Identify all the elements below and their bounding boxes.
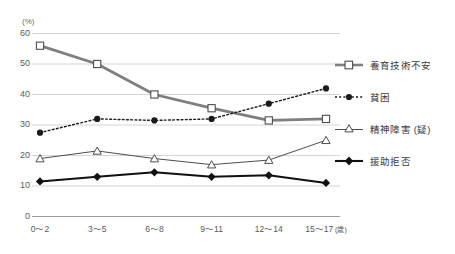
data-point-marker — [94, 60, 101, 67]
data-point-marker — [265, 156, 273, 163]
data-point-marker — [322, 115, 329, 122]
data-point-marker — [36, 177, 44, 185]
legend-item-yoiku[interactable]: 養育技術不安 — [334, 57, 454, 73]
data-point-marker — [36, 42, 43, 49]
data-point-marker — [151, 91, 158, 98]
legend-label: 貧困 — [370, 90, 390, 104]
series-line — [40, 172, 326, 183]
legend-marker-filled-circle — [334, 90, 364, 104]
series-line — [40, 140, 326, 164]
series-filled-circle — [37, 85, 329, 135]
data-point-marker — [265, 171, 273, 179]
chart-legend: 養育技術不安 貧困 精神障害 (疑) 援助拒否 — [334, 57, 454, 185]
series-open-square — [36, 42, 329, 124]
series-line — [40, 88, 326, 132]
series-line — [40, 46, 326, 121]
data-point-marker — [209, 116, 215, 122]
legend-marker-open-square — [334, 58, 364, 72]
legend-label: 援助拒否 — [370, 154, 411, 168]
data-point-marker — [151, 117, 157, 123]
legend-item-seishin[interactable]: 精神障害 (疑) — [334, 121, 454, 137]
gridlines — [32, 34, 340, 217]
data-point-marker — [93, 147, 101, 154]
data-point-marker — [265, 117, 272, 124]
data-point-marker — [322, 136, 330, 143]
chart-figure: (%) 60 50 40 30 20 10 0 0〜2 3〜5 6〜8 9〜11… — [0, 0, 455, 254]
data-point-marker — [150, 168, 158, 176]
legend-item-hinkon[interactable]: 貧困 — [334, 89, 454, 105]
legend-item-enjo[interactable]: 援助拒否 — [334, 153, 454, 169]
data-point-marker — [323, 85, 329, 91]
legend-marker-filled-diamond — [334, 154, 364, 168]
legend-label: 精神障害 (疑) — [370, 122, 431, 136]
data-point-marker — [37, 130, 43, 136]
legend-label: 養育技術不安 — [370, 58, 431, 72]
data-point-marker — [208, 173, 216, 181]
series-open-triangle — [36, 136, 330, 168]
data-point-marker — [93, 173, 101, 181]
series-filled-diamond — [36, 168, 330, 187]
data-point-marker — [266, 101, 272, 107]
data-point-marker — [94, 116, 100, 122]
data-point-marker — [208, 105, 215, 112]
legend-marker-open-triangle — [334, 122, 364, 136]
